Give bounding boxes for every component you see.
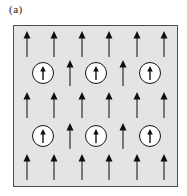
circled-spin-up bbox=[139, 125, 161, 147]
figure-panel-label: (a) bbox=[9, 3, 23, 15]
up-arrow-icon bbox=[75, 154, 89, 180]
spin-up-arrow bbox=[47, 92, 61, 118]
up-arrow-icon bbox=[130, 92, 144, 118]
up-arrow-icon bbox=[102, 31, 116, 57]
up-arrow-icon bbox=[37, 66, 49, 80]
circled-spin-up bbox=[32, 62, 54, 84]
spin-up-arrow bbox=[63, 60, 77, 86]
up-arrow-icon bbox=[144, 66, 156, 80]
up-arrow-icon bbox=[116, 60, 130, 86]
up-arrow-icon bbox=[63, 60, 77, 86]
figure-canvas: { "figure": { "label": "(a)", "descripti… bbox=[0, 0, 187, 196]
up-arrow-icon bbox=[47, 154, 61, 180]
spin-up-arrow bbox=[116, 60, 130, 86]
spin-up-arrow bbox=[63, 123, 77, 149]
up-arrow-icon bbox=[130, 31, 144, 57]
circled-spin-up bbox=[85, 125, 107, 147]
spin-up-arrow bbox=[157, 31, 171, 57]
spin-up-arrow bbox=[75, 31, 89, 57]
up-arrow-icon bbox=[116, 123, 130, 149]
up-arrow-icon bbox=[102, 92, 116, 118]
up-arrow-icon bbox=[144, 129, 156, 143]
spin-up-arrow bbox=[20, 92, 34, 118]
up-arrow-icon bbox=[47, 31, 61, 57]
up-arrow-icon bbox=[75, 92, 89, 118]
spin-up-arrow bbox=[102, 154, 116, 180]
up-arrow-icon bbox=[20, 31, 34, 57]
up-arrow-icon bbox=[157, 92, 171, 118]
up-arrow-icon bbox=[37, 129, 49, 143]
up-arrow-icon bbox=[75, 31, 89, 57]
spin-up-arrow bbox=[130, 154, 144, 180]
up-arrow-icon bbox=[20, 92, 34, 118]
up-arrow-icon bbox=[63, 123, 77, 149]
spin-up-arrow bbox=[47, 154, 61, 180]
up-arrow-icon bbox=[157, 31, 171, 57]
spin-up-arrow bbox=[102, 92, 116, 118]
up-arrow-icon bbox=[20, 154, 34, 180]
up-arrow-icon bbox=[130, 154, 144, 180]
circled-spin-up bbox=[32, 125, 54, 147]
spin-up-arrow bbox=[75, 154, 89, 180]
up-arrow-icon bbox=[90, 129, 102, 143]
spin-up-arrow bbox=[130, 92, 144, 118]
up-arrow-icon bbox=[90, 66, 102, 80]
up-arrow-icon bbox=[157, 154, 171, 180]
spin-up-arrow bbox=[130, 31, 144, 57]
spin-up-arrow bbox=[47, 31, 61, 57]
spin-up-arrow bbox=[116, 123, 130, 149]
spin-up-arrow bbox=[20, 31, 34, 57]
spin-up-arrow bbox=[20, 154, 34, 180]
circled-spin-up bbox=[139, 62, 161, 84]
circled-spin-up bbox=[85, 62, 107, 84]
up-arrow-icon bbox=[102, 154, 116, 180]
up-arrow-icon bbox=[47, 92, 61, 118]
spin-up-arrow bbox=[75, 92, 89, 118]
spin-up-arrow bbox=[157, 92, 171, 118]
spin-up-arrow bbox=[102, 31, 116, 57]
spin-up-arrow bbox=[157, 154, 171, 180]
spin-lattice-box bbox=[13, 25, 178, 187]
